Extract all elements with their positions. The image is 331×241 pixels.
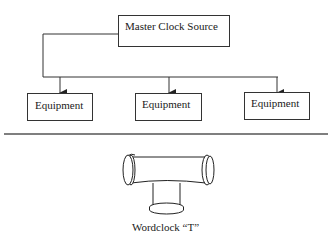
wordclock-t-connector-icon [123, 154, 214, 214]
master-clock-source-box: Master Clock Source [118, 15, 230, 47]
equipment-box: Equipment [27, 93, 93, 121]
equipment-label: Equipment [251, 97, 299, 109]
connector-caption: Wordclock “T” [0, 221, 331, 233]
master-clock-source-label: Master Clock Source [125, 20, 218, 32]
equipment-label: Equipment [35, 99, 83, 111]
equipment-box: Equipment [135, 93, 202, 121]
equipment-label: Equipment [142, 98, 190, 110]
equipment-box: Equipment [244, 92, 310, 120]
